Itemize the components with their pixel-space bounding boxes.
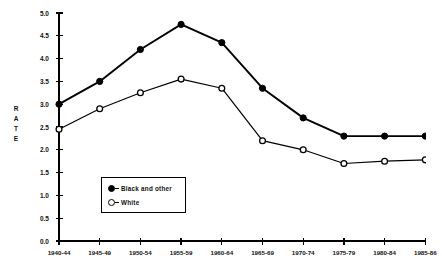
data-point-black-and-other-6 xyxy=(300,115,306,121)
data-point-white-1 xyxy=(97,106,103,112)
legend-line-segment-icon xyxy=(115,202,119,203)
data-point-black-and-other-9 xyxy=(422,133,426,139)
x-axis-tick-label: 1980-84 xyxy=(363,249,407,256)
legend-item-black-and-other: Black and other xyxy=(108,183,172,194)
y-axis-tick-label: 4.5 xyxy=(27,32,49,39)
data-point-white-4 xyxy=(219,85,225,91)
x-axis-tick-label: 1985-86 xyxy=(403,249,442,256)
y-axis-tick-label: 0.0 xyxy=(27,238,49,245)
data-point-white-8 xyxy=(382,158,388,164)
y-axis-tick-label: 2.5 xyxy=(27,124,49,131)
data-point-white-0 xyxy=(56,126,62,132)
data-series-group xyxy=(56,21,426,166)
data-point-white-7 xyxy=(341,161,347,167)
x-axis-tick-label: 1940-44 xyxy=(37,249,81,256)
data-point-black-and-other-5 xyxy=(259,85,265,91)
data-point-white-9 xyxy=(422,157,426,163)
data-point-black-and-other-3 xyxy=(178,21,184,27)
y-axis-tick-label: 3.0 xyxy=(27,101,49,108)
data-point-white-3 xyxy=(178,76,184,82)
x-axis-tick-label: 1955-59 xyxy=(159,249,203,256)
data-point-black-and-other-2 xyxy=(137,46,143,52)
legend: Black and other White xyxy=(101,177,186,213)
x-axis-tick-label: 1960-64 xyxy=(200,249,244,256)
data-point-black-and-other-7 xyxy=(341,133,347,139)
legend-label-black-and-other: Black and other xyxy=(121,185,172,192)
y-axis-tick-label: 3.5 xyxy=(27,78,49,85)
x-axis-tick-label: 1975-79 xyxy=(322,249,366,256)
x-axis-tick-label: 1970-74 xyxy=(281,249,325,256)
data-point-black-and-other-8 xyxy=(382,133,388,139)
y-axis-tick-label: 2.0 xyxy=(27,146,49,153)
data-point-white-5 xyxy=(260,138,266,144)
data-point-black-and-other-1 xyxy=(97,78,103,84)
y-axis-tick-label: 4.0 xyxy=(27,55,49,62)
data-point-white-2 xyxy=(138,90,144,96)
data-point-black-and-other-4 xyxy=(219,40,225,46)
legend-item-white: White xyxy=(108,197,139,208)
y-axis-tick-label: 0.5 xyxy=(27,215,49,222)
legend-label-white: White xyxy=(121,199,139,206)
x-axis-tick-label: 1965-69 xyxy=(241,249,285,256)
y-axis-tick-label: 5.0 xyxy=(27,10,49,17)
open-circle-icon xyxy=(108,199,115,206)
y-axis-tick-label: 1.5 xyxy=(27,169,49,176)
series-line-white xyxy=(59,79,425,163)
series-line-black-and-other xyxy=(59,24,425,136)
x-axis-tick-label: 1950-54 xyxy=(118,249,162,256)
y-axis-tick-label: 1.0 xyxy=(27,192,49,199)
data-point-white-6 xyxy=(300,147,306,153)
filled-circle-icon xyxy=(108,185,115,192)
legend-line-segment-icon xyxy=(115,188,119,189)
x-axis-tick-label: 1945-49 xyxy=(78,249,122,256)
data-point-black-and-other-0 xyxy=(56,101,62,107)
